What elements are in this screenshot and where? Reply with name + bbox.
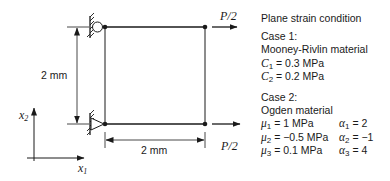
material-panel: Plane strain condition Case 1: Mooney-Ri…	[261, 12, 368, 157]
case1-material: Mooney-Rivlin material	[261, 43, 368, 56]
square-specimen	[103, 25, 208, 127]
axis-x2-sub: 2	[24, 114, 28, 123]
case2-param-row-1: μ1 = 1 MPa α1 = 2	[261, 117, 368, 130]
mu-value: = 0.1 MPa	[271, 144, 322, 156]
case2-param-row-2: μ2 = −0.5 MPa α2 = −1	[261, 131, 368, 144]
load-label-bottom: P/2	[221, 140, 238, 152]
alpha-value: = 2	[350, 117, 368, 129]
mu-value: = −0.5 MPa	[271, 131, 328, 143]
pin-support-icon	[87, 110, 104, 135]
mu-value: = 1 MPa	[271, 117, 313, 129]
vertical-dimension-line	[67, 27, 89, 124]
case1-title: Case 1:	[261, 30, 368, 43]
param-symbol: C	[261, 57, 269, 69]
coordinate-axes-icon	[27, 108, 84, 161]
case2-title: Case 2:	[261, 91, 368, 104]
condition-label: Plane strain condition	[261, 12, 368, 25]
vertical-dimension-label: 2 mm	[41, 70, 67, 81]
case2-param-row-3: μ3 = 0.1 MPa α3 = 4	[261, 144, 368, 157]
case1-param-c1: C1 = 0.3 MPa	[261, 57, 368, 70]
case2-material: Ogden material	[261, 104, 368, 117]
alpha-value: = −1	[350, 131, 374, 143]
horizontal-dimension-label: 2 mm	[141, 145, 167, 156]
param-symbol: C	[261, 70, 269, 82]
param-value: = 0.3 MPa	[273, 57, 324, 69]
param-value: = 0.2 MPa	[273, 70, 324, 82]
load-label-top: P/2	[220, 10, 237, 22]
axis-label-x1: x1	[78, 162, 87, 174]
alpha-value: = 4	[350, 144, 368, 156]
case1-param-c2: C2 = 0.2 MPa	[261, 70, 368, 83]
roller-support-icon	[87, 13, 103, 38]
axis-label-x2: x2	[19, 109, 28, 121]
axis-x1-sub: 1	[83, 167, 87, 176]
